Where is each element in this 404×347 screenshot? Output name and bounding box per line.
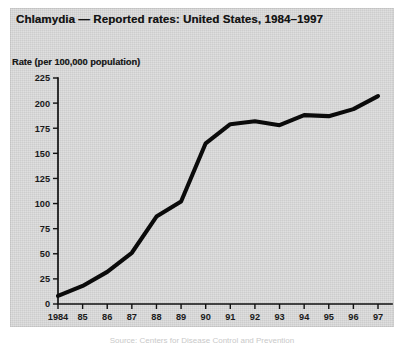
- figure-panel: [10, 8, 394, 327]
- chart-title: Chlamydia — Reported rates: United State…: [16, 13, 323, 25]
- bottom-caption: Source: Centers for Disease Control and …: [0, 336, 404, 347]
- y-axis-label: Rate (per 100,000 population): [12, 57, 140, 67]
